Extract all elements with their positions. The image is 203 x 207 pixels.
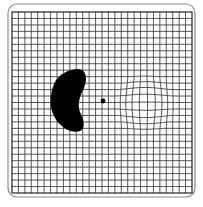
amsler-grid-figure: [0, 0, 203, 207]
fixation-dot: [101, 99, 106, 104]
caption: [10, 199, 110, 207]
